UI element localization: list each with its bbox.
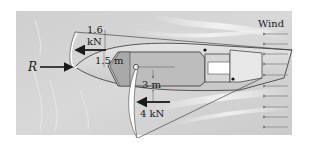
horizontal-dimension-label: 3 m	[142, 79, 162, 90]
tail-cone	[230, 50, 262, 82]
vertical-dimension-label: 1.5 m	[95, 55, 124, 66]
diagram-canvas: R 1.6 kN 1.5 m 3 m 4 kN Wind	[0, 0, 313, 156]
wind-turbine-free-body-diagram: R 1.6 kN 1.5 m 3 m 4 kN Wind	[0, 0, 313, 156]
reaction-force-label: R	[27, 60, 37, 74]
attachment-point-top	[203, 48, 206, 51]
bottom-force-label: 4 kN	[140, 108, 165, 119]
wind-label: Wind	[258, 18, 285, 29]
top-force-unit: kN	[87, 36, 102, 47]
attachment-point-bottom	[231, 77, 234, 80]
shaft-window	[208, 62, 230, 74]
top-force-value: 1.6	[87, 24, 103, 35]
